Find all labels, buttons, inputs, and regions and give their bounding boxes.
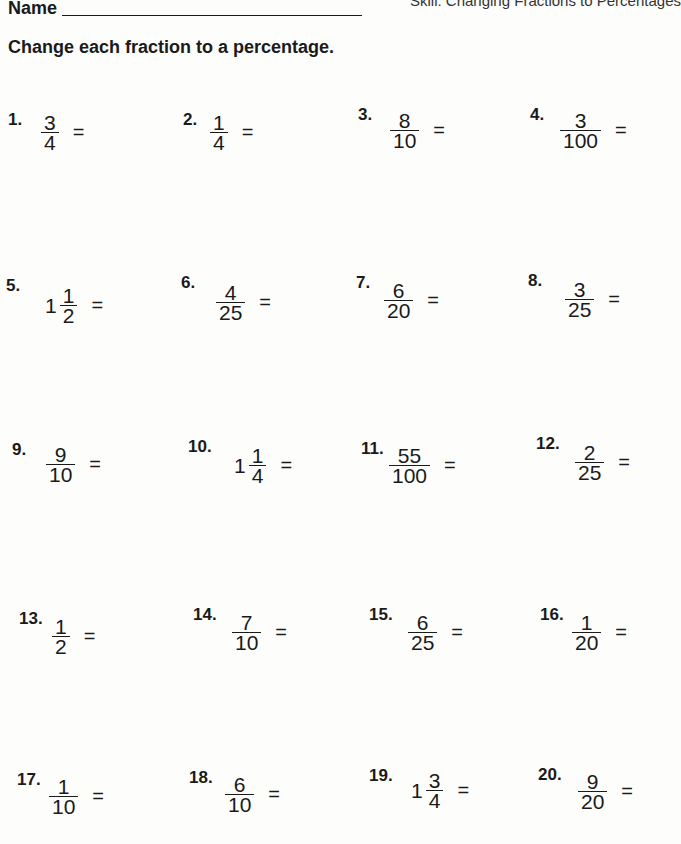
numerator: 3 xyxy=(41,113,59,132)
fraction-expression: 6 10 = xyxy=(225,775,280,814)
denominator: 20 xyxy=(578,791,607,811)
fraction-expression: 4 25 = xyxy=(216,283,271,322)
fraction-expression: 3 25 = xyxy=(565,280,620,319)
equals-sign: = xyxy=(275,621,287,644)
denominator: 10 xyxy=(390,130,419,150)
denominator: 100 xyxy=(560,130,601,150)
equals-sign: = xyxy=(89,453,101,476)
fraction-expression: 6 20 = xyxy=(384,281,439,320)
numerator: 1 xyxy=(210,113,228,132)
problem-number: 17. xyxy=(17,770,41,790)
fraction: 1 4 xyxy=(249,446,267,485)
numerator: 6 xyxy=(414,613,432,632)
denominator: 4 xyxy=(426,790,444,810)
problem-number: 5. xyxy=(6,276,20,296)
fraction: 3 25 xyxy=(565,280,594,319)
equals-sign: = xyxy=(451,621,463,644)
fraction-expression: 3 100 = xyxy=(560,111,627,150)
fraction-expression: 1 2 = xyxy=(52,617,95,656)
fraction-expression: 55 100 = xyxy=(389,446,456,485)
name-line[interactable] xyxy=(62,15,362,16)
fraction: 6 10 xyxy=(225,775,254,814)
numerator: 1 xyxy=(578,613,596,632)
equals-sign: = xyxy=(84,625,96,648)
fraction-expression: 3 4 = xyxy=(41,113,84,152)
numerator: 8 xyxy=(396,111,414,130)
numerator: 1 xyxy=(55,777,73,796)
numerator: 9 xyxy=(52,445,70,464)
fraction: 3 4 xyxy=(426,771,444,810)
denominator: 4 xyxy=(41,132,59,152)
fraction-expression: 6 25 = xyxy=(408,613,463,652)
fraction-expression: 9 10 = xyxy=(46,445,101,484)
numerator: 1 xyxy=(60,286,78,305)
fraction: 1 2 xyxy=(52,617,70,656)
fraction: 3 100 xyxy=(560,111,601,150)
numerator: 4 xyxy=(222,283,240,302)
problem-number: 2. xyxy=(183,110,197,130)
fraction: 9 10 xyxy=(46,445,75,484)
problem-number: 19. xyxy=(369,766,393,786)
denominator: 25 xyxy=(408,632,437,652)
problem-number: 1. xyxy=(8,110,22,130)
equals-sign: = xyxy=(91,294,103,317)
denominator: 25 xyxy=(575,462,604,482)
equals-sign: = xyxy=(618,451,630,474)
problem-number: 18. xyxy=(189,768,213,788)
fraction: 8 10 xyxy=(390,111,419,150)
problem-number: 14. xyxy=(193,605,217,625)
problem-number: 13. xyxy=(19,609,43,629)
problem-number: 7. xyxy=(356,273,370,293)
equals-sign: = xyxy=(433,119,445,142)
fraction-expression: 1 4 = xyxy=(210,113,253,152)
fraction: 1 2 xyxy=(60,286,78,325)
fraction-expression: 9 20 = xyxy=(578,772,633,811)
numerator: 3 xyxy=(426,771,444,790)
numerator: 3 xyxy=(571,280,589,299)
fraction: 6 20 xyxy=(384,281,413,320)
denominator: 4 xyxy=(249,465,267,485)
fraction: 7 10 xyxy=(232,613,261,652)
denominator: 20 xyxy=(384,300,413,320)
numerator: 3 xyxy=(572,111,590,130)
problem-number: 16. xyxy=(540,605,564,625)
denominator: 2 xyxy=(52,636,70,656)
fraction: 4 25 xyxy=(216,283,245,322)
denominator: 4 xyxy=(210,132,228,152)
denominator: 25 xyxy=(216,302,245,322)
fraction: 6 25 xyxy=(408,613,437,652)
problem-number: 4. xyxy=(530,105,544,125)
whole-number: 1 xyxy=(411,779,423,803)
equals-sign: = xyxy=(92,785,104,808)
equals-sign: = xyxy=(444,454,456,477)
fraction: 55 100 xyxy=(389,446,430,485)
problem-number: 9. xyxy=(12,440,26,460)
numerator: 2 xyxy=(581,443,599,462)
numerator: 7 xyxy=(238,613,256,632)
numerator: 6 xyxy=(231,775,249,794)
numerator: 6 xyxy=(390,281,408,300)
equals-sign: = xyxy=(242,121,254,144)
denominator: 20 xyxy=(572,632,601,652)
fraction-expression: 1 20 = xyxy=(572,613,627,652)
equals-sign: = xyxy=(615,119,627,142)
fraction: 1 10 xyxy=(49,777,78,816)
fraction-expression: 2 25 = xyxy=(575,443,630,482)
fraction-expression: 1 3 4 = xyxy=(411,771,469,810)
problem-number: 12. xyxy=(536,434,560,454)
whole-number: 1 xyxy=(234,454,246,478)
fraction: 1 20 xyxy=(572,613,601,652)
fraction-expression: 1 1 4 = xyxy=(234,446,292,485)
equals-sign: = xyxy=(268,783,280,806)
skill-label: Skill: Changing Fractions to Percentages xyxy=(410,0,681,9)
problem-number: 10. xyxy=(188,437,212,457)
fraction: 2 25 xyxy=(575,443,604,482)
equals-sign: = xyxy=(73,121,85,144)
problem-number: 15. xyxy=(369,605,393,625)
equals-sign: = xyxy=(427,289,439,312)
problem-number: 6. xyxy=(181,273,195,293)
fraction: 3 4 xyxy=(41,113,59,152)
denominator: 2 xyxy=(60,305,78,325)
fraction: 9 20 xyxy=(578,772,607,811)
numerator: 9 xyxy=(584,772,602,791)
